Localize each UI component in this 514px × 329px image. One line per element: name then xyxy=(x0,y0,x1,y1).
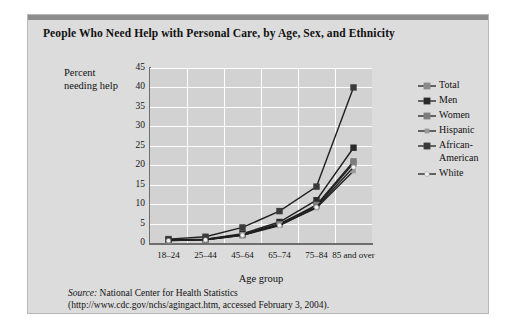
legend-item[interactable]: Women xyxy=(418,109,493,124)
chart-card: People Who Need Help with Personal Care,… xyxy=(27,14,489,314)
y-axis-tick-label: 35 xyxy=(136,102,146,112)
legend-item[interactable]: Total xyxy=(418,79,493,94)
series-line xyxy=(169,87,354,239)
legend: TotalMenWomenHispanicAfrican- AmericanWh… xyxy=(418,79,493,182)
y-axis-tick-label: 10 xyxy=(136,199,146,209)
legend-item-label: African- American xyxy=(439,139,478,164)
data-point xyxy=(350,84,356,90)
legend-marker-icon xyxy=(418,110,436,122)
data-point xyxy=(314,205,318,209)
data-point xyxy=(350,145,356,151)
data-point xyxy=(313,183,319,189)
legend-item-label: White xyxy=(439,167,463,180)
data-point xyxy=(350,158,356,164)
y-axis-tick-label: 40 xyxy=(136,83,146,93)
series-african--american xyxy=(165,84,356,242)
source-agency: National Center for Health Statistics xyxy=(97,288,238,298)
legend-item-label: Hispanic xyxy=(439,124,475,137)
source-line-1: Source: National Center for Health Stati… xyxy=(68,287,329,299)
source-note: Source: National Center for Health Stati… xyxy=(68,287,329,311)
legend-item-label: Men xyxy=(439,94,457,107)
data-point xyxy=(276,208,282,214)
y-axis-tick-label: 0 xyxy=(140,238,145,248)
y-axis-tick-label: 15 xyxy=(136,180,146,190)
legend-marker-icon xyxy=(418,80,436,92)
legend-item[interactable]: African- American xyxy=(418,139,493,167)
legend-item-label: Total xyxy=(439,79,459,92)
y-axis-tick-label: 30 xyxy=(136,122,146,132)
series-line xyxy=(169,167,354,241)
x-axis-tick-label: 45–64 xyxy=(231,250,254,261)
y-axis-tick-label: 45 xyxy=(136,63,146,73)
data-series-layer xyxy=(150,68,372,243)
data-point xyxy=(240,233,244,237)
legend-item[interactable]: Men xyxy=(418,94,493,109)
data-point xyxy=(351,165,355,169)
source-label: Source: xyxy=(68,288,97,298)
x-axis-tick-label: 65–74 xyxy=(268,250,291,261)
legend-marker-icon xyxy=(418,95,436,107)
data-point xyxy=(166,238,170,242)
x-axis-line xyxy=(149,243,373,245)
data-point xyxy=(277,223,281,227)
series-hispanic xyxy=(166,169,356,243)
x-axis-title: Age group xyxy=(150,273,372,284)
card-top-bar xyxy=(28,15,488,20)
legend-marker-icon xyxy=(418,168,436,180)
y-axis-title: Percent needing help xyxy=(64,66,122,92)
source-line-2: (http://www.cdc.gov/nchs/agingact.htm, a… xyxy=(68,299,329,311)
series-white xyxy=(166,165,355,243)
legend-item-label: Women xyxy=(439,109,470,122)
legend-item[interactable]: White xyxy=(418,167,493,182)
legend-marker-icon xyxy=(418,125,436,137)
plot-area: 051015202530354045 18–2425–4445–6465–747… xyxy=(150,68,372,243)
data-point xyxy=(239,224,245,230)
page-title: People Who Need Help with Personal Care,… xyxy=(43,27,395,39)
y-axis-tick-label: 5 xyxy=(140,219,145,229)
y-axis-tick-label: 20 xyxy=(136,160,146,170)
series-line xyxy=(169,163,354,240)
screenshot-root: People Who Need Help with Personal Care,… xyxy=(0,0,514,329)
y-axis-tick-label: 25 xyxy=(136,141,146,151)
x-axis-tick-label: 75–84 xyxy=(305,250,328,261)
x-axis-tick-label: 85 and over xyxy=(332,250,375,261)
legend-item[interactable]: Hispanic xyxy=(418,124,493,139)
x-axis-tick-label: 18–24 xyxy=(157,250,180,261)
legend-marker-icon xyxy=(418,140,436,152)
data-point xyxy=(203,238,207,242)
x-axis-tick-label: 25–44 xyxy=(194,250,217,261)
